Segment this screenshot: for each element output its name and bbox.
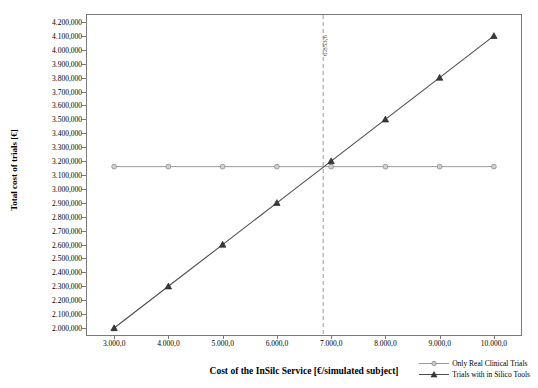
- y-tick-label: 4.200,000: [30, 17, 82, 26]
- y-tick-label: 3.400,000: [30, 129, 82, 138]
- x-tick-mark: [440, 335, 441, 339]
- y-tick-label: 3.600,000: [30, 101, 82, 110]
- y-tick-mark: [82, 328, 86, 329]
- y-tick-label: 2.800,000: [30, 212, 82, 221]
- y-tick-label: 3.200,000: [30, 157, 82, 166]
- y-tick-mark: [82, 300, 86, 301]
- x-tick-mark: [223, 335, 224, 339]
- y-tick-mark: [82, 64, 86, 65]
- y-tick-label: 3.800,000: [30, 73, 82, 82]
- data-point-marker: [491, 164, 496, 169]
- y-tick-mark: [82, 147, 86, 148]
- y-tick-label: 4.000,000: [30, 45, 82, 54]
- y-axis-title: Total cost of trials [€]: [8, 60, 20, 280]
- break-even-vline-label: 6.853,6: [321, 35, 329, 56]
- y-tick-mark: [82, 258, 86, 259]
- x-tick-label: 3.000,0: [84, 339, 144, 348]
- y-tick-label: 2.100,000: [30, 310, 82, 319]
- y-tick-mark: [82, 78, 86, 79]
- x-tick-mark: [114, 335, 115, 339]
- y-tick-mark: [82, 105, 86, 106]
- y-tick-mark: [82, 272, 86, 273]
- y-tick-mark: [82, 22, 86, 23]
- x-tick-label: 5.000,0: [193, 339, 253, 348]
- y-tick-label: 2.700,000: [30, 226, 82, 235]
- y-tick-label: 3.500,000: [30, 115, 82, 124]
- y-tick-label: 3.900,000: [30, 59, 82, 68]
- y-tick-label: 3.300,000: [30, 143, 82, 152]
- x-tick-label: 9.000,0: [410, 339, 470, 348]
- y-tick-mark: [82, 231, 86, 232]
- y-tick-mark: [82, 36, 86, 37]
- y-tick-mark: [82, 161, 86, 162]
- x-tick-label: 6.000,0: [247, 339, 307, 348]
- y-tick-label: 3.000,000: [30, 184, 82, 193]
- y-tick-mark: [82, 245, 86, 246]
- y-tick-label: 3.100,000: [30, 171, 82, 180]
- y-tick-label: 2.600,000: [30, 240, 82, 249]
- y-tick-mark: [82, 217, 86, 218]
- x-tick-mark: [385, 335, 386, 339]
- y-tick-mark: [82, 119, 86, 120]
- x-tick-mark: [277, 335, 278, 339]
- x-tick-label: 8.000,0: [355, 339, 415, 348]
- y-tick-mark: [82, 203, 86, 204]
- y-tick-mark: [82, 314, 86, 315]
- x-tick-mark: [331, 335, 332, 339]
- y-tick-label: 2.300,000: [30, 282, 82, 291]
- y-tick-mark: [82, 92, 86, 93]
- y-tick-label: 2.400,000: [30, 268, 82, 277]
- data-point-marker: [274, 164, 279, 169]
- x-tick-label: 4.000,0: [138, 339, 198, 348]
- x-tick-label: 7.000,0: [301, 339, 361, 348]
- plot-inner: [87, 15, 521, 335]
- x-axis-title: Cost of the InSilc Service [€/simulated …: [86, 366, 522, 376]
- x-tick-mark: [494, 335, 495, 339]
- y-tick-label: 2.200,000: [30, 296, 82, 305]
- y-tick-label: 3.700,000: [30, 87, 82, 96]
- y-tick-mark: [82, 133, 86, 134]
- y-tick-label: 2.000,000: [30, 324, 82, 333]
- data-point-marker: [437, 164, 442, 169]
- data-point-marker: [220, 164, 225, 169]
- y-tick-mark: [82, 286, 86, 287]
- y-tick-label: 2.900,000: [30, 198, 82, 207]
- y-axis-title-label: Total cost of trials [€]: [9, 129, 19, 211]
- data-point-marker: [329, 164, 334, 169]
- chart-container: Total cost of trials [€] 2.000,0002.100,…: [0, 0, 538, 388]
- data-point-marker: [383, 164, 388, 169]
- y-tick-mark: [82, 50, 86, 51]
- x-tick-mark: [168, 335, 169, 339]
- y-tick-label: 4.100,000: [30, 31, 82, 40]
- data-point-marker: [166, 164, 171, 169]
- data-point-marker: [491, 33, 497, 39]
- data-point-marker: [112, 164, 117, 169]
- x-tick-label: 10.000,0: [464, 339, 524, 348]
- plot-svg: [87, 15, 521, 335]
- plot-area: [86, 14, 522, 336]
- y-tick-label: 2.500,000: [30, 254, 82, 263]
- y-tick-mark: [82, 175, 86, 176]
- y-tick-mark: [82, 189, 86, 190]
